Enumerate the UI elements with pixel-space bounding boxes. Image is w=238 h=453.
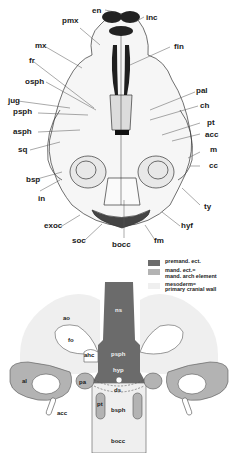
label-ahc: ahc	[84, 352, 94, 358]
legend-label: mand. ect.= mand. arch element	[165, 268, 217, 280]
label-bsph: bsph	[111, 407, 125, 413]
label-hyf: hyf	[181, 222, 193, 230]
label-hyp: hyp	[113, 367, 124, 373]
label-pt: pt	[207, 119, 215, 127]
skull-ventral-drawing	[0, 0, 238, 250]
label-fo: fo	[68, 337, 74, 343]
legend-label: premand. ect.	[165, 259, 201, 265]
label-m: m	[210, 146, 217, 154]
legend-swatch-light	[148, 283, 160, 289]
legend-item-mand: mand. ect.= mand. arch element	[148, 268, 238, 280]
label-ds: ds	[114, 387, 121, 393]
label-pal: pal	[196, 87, 208, 95]
label-ns: ns	[115, 307, 122, 313]
legend-label: mesoderm= primary cranial wall	[165, 282, 216, 294]
label-psph: psph	[111, 351, 125, 357]
label-pa: pa	[79, 379, 86, 385]
label-ch: ch	[200, 102, 209, 110]
label-bsp: bsp	[26, 176, 40, 184]
label-acc: acc	[205, 131, 218, 139]
legend: premand. ect. mand. ect.= mand. arch ele…	[148, 259, 238, 295]
label-fin: fin	[174, 43, 184, 51]
label-ao: ao	[63, 315, 70, 321]
label-pmx: pmx	[62, 17, 78, 25]
label-jug: jug	[8, 97, 20, 105]
label-cc: cc	[209, 162, 218, 170]
legend-item-mesoderm: mesoderm= primary cranial wall	[148, 282, 238, 294]
label-fm: fm	[154, 237, 164, 245]
label-soc: soc	[72, 237, 86, 245]
label-fr: fr	[29, 57, 35, 65]
legend-swatch-medium	[148, 269, 160, 275]
label-bocc: bocc	[112, 241, 131, 249]
label-en: en	[92, 7, 101, 15]
label-sq: sq	[18, 146, 27, 154]
label-pt: pt	[97, 401, 103, 407]
label-acc: acc	[57, 410, 67, 416]
label-osph: osph	[25, 78, 44, 86]
label-exoc: exoc	[44, 222, 62, 230]
label-al: al	[22, 378, 27, 384]
legend-item-premand: premand. ect.	[148, 259, 238, 266]
label-psph: psph	[13, 108, 32, 116]
label-bocc: bocc	[111, 438, 125, 444]
label-mx: mx	[35, 42, 47, 50]
label-in: in	[38, 195, 45, 203]
label-ty: ty	[204, 203, 211, 211]
legend-swatch-dark	[148, 260, 160, 266]
label-asph: asph	[13, 128, 32, 136]
label-inc: inc	[146, 14, 158, 22]
